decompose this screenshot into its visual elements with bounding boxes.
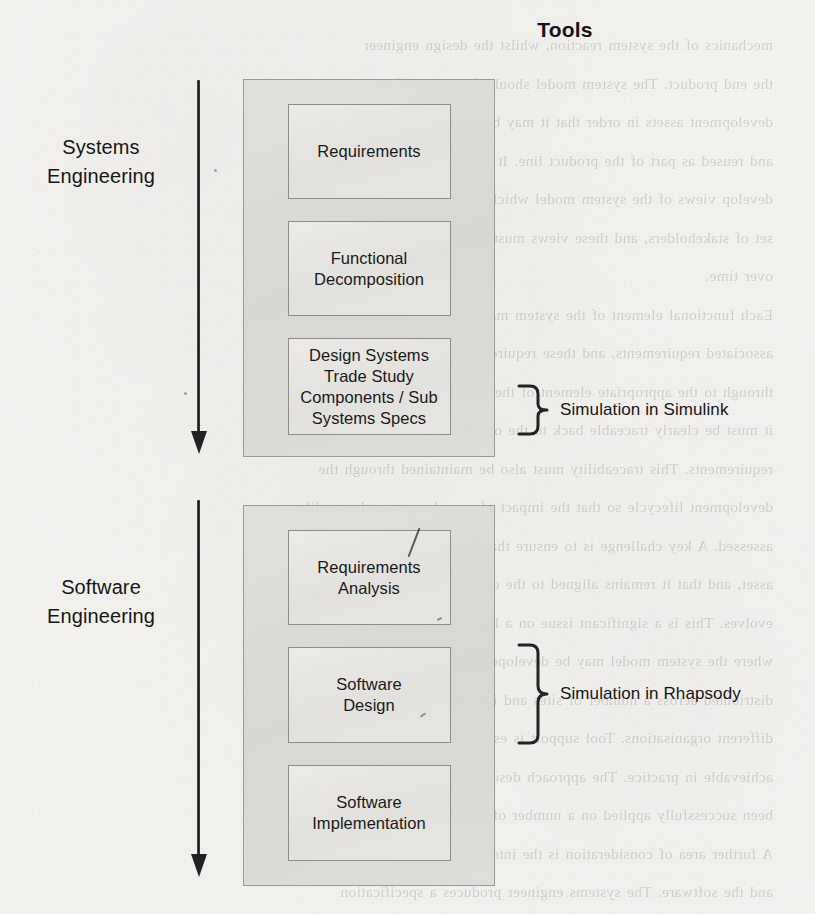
arrow-shaft [197, 500, 200, 855]
arrow-head [191, 854, 207, 877]
annotation-label: Simulation in Rhapsody [560, 684, 741, 704]
process-box-label: Software Implementation [312, 792, 426, 834]
process-box-label: Requirements Analysis [317, 557, 420, 599]
curly-brace-right-icon [516, 642, 550, 746]
bleed-line: requirements. This traceability must als… [22, 454, 793, 484]
scan-artifact-speck [214, 169, 217, 172]
process-box-requirements[interactable]: Requirements [288, 104, 451, 199]
arrow-shaft [197, 80, 200, 432]
process-box-requirements-analysis[interactable]: Requirements Analysis [288, 530, 451, 625]
scan-artifact-speck [184, 392, 187, 395]
process-box-label: Requirements [317, 141, 420, 162]
stage-label-systems-engineering: Systems Engineering [6, 133, 196, 191]
process-box-label: Functional Decomposition [314, 248, 424, 290]
curly-brace-right-icon [516, 383, 550, 437]
process-box-functional-decomposition[interactable]: Functional Decomposition [288, 221, 451, 316]
arrow-head [191, 431, 207, 454]
stage-label-software-engineering: Software Engineering [6, 573, 196, 631]
annotation-simulation-in-simulink: Simulation in Simulink [516, 383, 729, 437]
process-box-label: Design Systems Trade Study Components / … [300, 345, 437, 429]
tools-column-title: Tools [470, 18, 660, 42]
process-box-design-systems[interactable]: Design Systems Trade Study Components / … [288, 338, 451, 435]
annotation-simulation-in-rhapsody: Simulation in Rhapsody [516, 642, 741, 746]
scanned-page: mechanics of the system reaction, whilst… [0, 0, 815, 914]
bleed-line: mechanics of the system reaction, whilst… [22, 30, 793, 60]
group-container-software-engineering: Requirements Analysis Software Design So… [243, 505, 495, 886]
process-box-software-implementation[interactable]: Software Implementation [288, 765, 451, 861]
process-box-label: Software Design [336, 674, 402, 716]
group-container-systems-engineering: Requirements Functional Decomposition De… [243, 79, 495, 457]
downward-arrow-icon-software [190, 500, 207, 877]
process-box-software-design[interactable]: Software Design [288, 647, 451, 743]
annotation-label: Simulation in Simulink [560, 400, 729, 420]
downward-arrow-icon-systems [190, 80, 207, 454]
